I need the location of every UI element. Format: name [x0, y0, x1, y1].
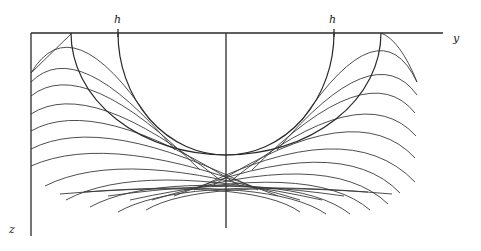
curve-family	[31, 33, 417, 214]
right-family-curve	[232, 114, 416, 180]
right-family-curve	[302, 51, 417, 120]
diagram-canvas	[0, 0, 481, 251]
y-axis-label: y	[453, 33, 459, 44]
h-left-label: h	[114, 14, 121, 25]
z-axis-label: z	[9, 224, 15, 235]
right-family-curve	[212, 132, 415, 186]
left-family-curve	[31, 85, 200, 170]
left-family-curve	[45, 169, 300, 200]
left-family-curve	[118, 188, 368, 212]
right-family-curve	[277, 74, 417, 150]
right-family-curve	[174, 162, 400, 196]
h-right-label: h	[329, 14, 336, 25]
right-family-curve	[84, 188, 326, 214]
cusp-left-edge	[31, 33, 72, 73]
right-family-curve	[252, 93, 415, 170]
left-family-curve	[31, 47, 150, 120]
